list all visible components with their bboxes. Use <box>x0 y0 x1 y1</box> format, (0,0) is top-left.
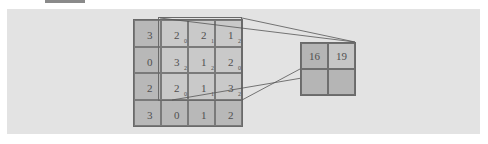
output-matrix: 16 19 <box>300 42 356 96</box>
projection-lines <box>0 0 488 144</box>
output-cell <box>301 69 328 95</box>
output-cell <box>328 69 355 95</box>
output-cell: 16 <box>301 43 328 69</box>
output-cell: 19 <box>328 43 355 69</box>
